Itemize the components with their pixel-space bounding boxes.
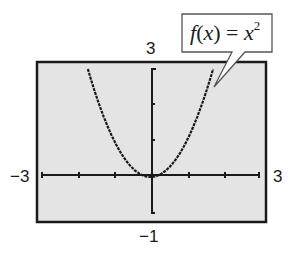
ymax-label: 3 xyxy=(146,40,155,57)
xmax-label: 3 xyxy=(273,168,282,185)
xmin-label: −3 xyxy=(10,168,29,185)
ymin-label: −1 xyxy=(139,228,158,245)
function-label: f(x) = x2 xyxy=(190,22,260,44)
